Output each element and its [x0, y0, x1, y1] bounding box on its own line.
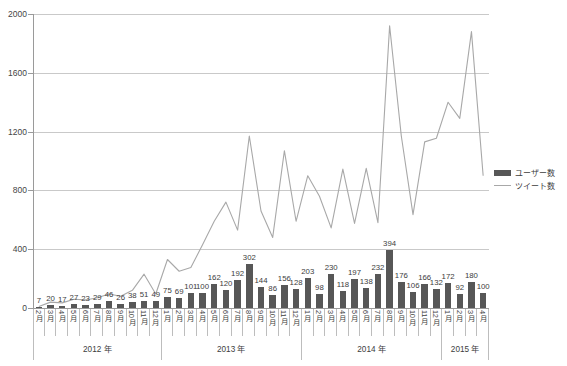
bar-item[interactable]: [208, 14, 220, 308]
bar: [141, 301, 147, 308]
bar: [234, 280, 240, 308]
bar-item[interactable]: [314, 14, 326, 308]
bar-value-label: 120: [219, 279, 232, 288]
x-axis-month-cell: 7月: [91, 309, 103, 336]
bar-item[interactable]: [267, 14, 279, 308]
bar-item[interactable]: [115, 14, 127, 308]
bar-item[interactable]: [103, 14, 115, 308]
x-axis-month-label: 2月: [454, 310, 465, 321]
bar: [445, 283, 451, 308]
bar-value-label: 92: [455, 283, 464, 292]
x-axis-month-cell: 1月: [442, 309, 454, 336]
bar-series-layer: 7201727232946263851497569101100162120192…: [33, 14, 489, 308]
bar-item[interactable]: [138, 14, 150, 308]
x-axis-year-cell: 2012 年: [33, 336, 162, 360]
x-axis-month-label: 12月: [290, 310, 301, 324]
bar-value-label: 46: [105, 290, 114, 299]
x-axis-month-cell: 4月: [56, 309, 68, 336]
bar-item[interactable]: [337, 14, 349, 308]
x-axis-month-label: 4月: [197, 310, 208, 321]
bar-item[interactable]: [290, 14, 302, 308]
bar-item[interactable]: [127, 14, 139, 308]
bar-item[interactable]: [431, 14, 443, 308]
bar-item[interactable]: [150, 14, 162, 308]
bar-item[interactable]: [407, 14, 419, 308]
bar: [468, 282, 474, 308]
bar-item[interactable]: [33, 14, 45, 308]
bar: [410, 292, 416, 308]
x-axis-month-cell: 3月: [185, 309, 197, 336]
x-axis-month-label: 6月: [360, 310, 371, 321]
bar-item[interactable]: [243, 14, 255, 308]
x-axis-month-cell: 10月: [267, 309, 279, 336]
bar-item[interactable]: [91, 14, 103, 308]
bar-item[interactable]: [185, 14, 197, 308]
bar: [386, 250, 392, 308]
bar-item[interactable]: [384, 14, 396, 308]
x-axis-month-label: 8月: [103, 310, 114, 321]
bar-item[interactable]: [232, 14, 244, 308]
bar-item[interactable]: [56, 14, 68, 308]
x-axis-year-labels: 2012 年2013 年2014 年2015 年: [33, 336, 489, 360]
bar-item[interactable]: [466, 14, 478, 308]
legend-label-tweets: ツイート数: [515, 180, 555, 191]
x-axis-month-label: 2月: [33, 310, 44, 321]
chart-legend: ユーザー数 ツイート数: [494, 166, 555, 192]
x-axis-month-cell: 1月: [162, 309, 174, 336]
bar-item[interactable]: [255, 14, 267, 308]
x-axis-month-label: 3月: [185, 310, 196, 321]
x-axis-month-label: 12月: [150, 310, 161, 324]
x-axis-month-cell: 4月: [197, 309, 209, 336]
bar-item[interactable]: [173, 14, 185, 308]
bar-item[interactable]: [279, 14, 291, 308]
x-axis-month-labels: 2月3月4月5月6月7月8月9月10月11月12月1月2月3月4月5月6月7月8…: [33, 309, 489, 336]
bar-item[interactable]: [220, 14, 232, 308]
x-axis-month-cell: 12月: [150, 309, 162, 336]
x-axis-month-cell: 2月: [173, 309, 185, 336]
bar-item[interactable]: [45, 14, 57, 308]
line-swatch-icon: [494, 185, 511, 186]
bar-item[interactable]: [477, 14, 489, 308]
chart-container: 0400800120016002000 72017272329462638514…: [0, 0, 567, 366]
y-tick-label: 800: [13, 185, 27, 195]
x-axis-month-cell: 8月: [243, 309, 255, 336]
bar-item[interactable]: [395, 14, 407, 308]
x-axis-month-label: 1月: [442, 310, 453, 321]
bar: [246, 264, 252, 308]
x-axis-month-cell: 5月: [349, 309, 361, 336]
x-axis-month-label: 8月: [384, 310, 395, 321]
bar-value-label: 86: [268, 284, 277, 293]
x-axis-month-cell: 3月: [325, 309, 337, 336]
bar: [398, 282, 404, 308]
bar-value-label: 180: [465, 271, 478, 280]
bar-item[interactable]: [68, 14, 80, 308]
bar-item[interactable]: [419, 14, 431, 308]
bar-item[interactable]: [442, 14, 454, 308]
x-axis-month-cell: 12月: [290, 309, 302, 336]
bar-value-label: 23: [81, 294, 90, 303]
x-axis-month-cell: 4月: [477, 309, 489, 336]
x-axis-month-cell: 8月: [103, 309, 115, 336]
bar-value-label: 100: [477, 282, 490, 291]
bar: [375, 274, 381, 308]
bar-item[interactable]: [360, 14, 372, 308]
bar: [153, 301, 159, 308]
bar-item[interactable]: [302, 14, 314, 308]
bar: [164, 297, 170, 308]
x-axis-month-cell: 11月: [279, 309, 291, 336]
bar-value-label: 138: [360, 277, 373, 286]
bar-item[interactable]: [162, 14, 174, 308]
bar-item[interactable]: [80, 14, 92, 308]
bar-item[interactable]: [197, 14, 209, 308]
x-axis-month-label: 7月: [91, 310, 102, 321]
bar-item[interactable]: [454, 14, 466, 308]
bar: [363, 288, 369, 308]
bar: [269, 295, 275, 308]
bar-value-label: 49: [151, 290, 160, 299]
x-axis-month-cell: 2月: [454, 309, 466, 336]
x-axis-month-cell: 7月: [232, 309, 244, 336]
bar: [457, 294, 463, 308]
x-axis-year-label: 2015 年: [451, 342, 480, 354]
bar-item[interactable]: [349, 14, 361, 308]
x-axis-month-cell: 10月: [127, 309, 139, 336]
